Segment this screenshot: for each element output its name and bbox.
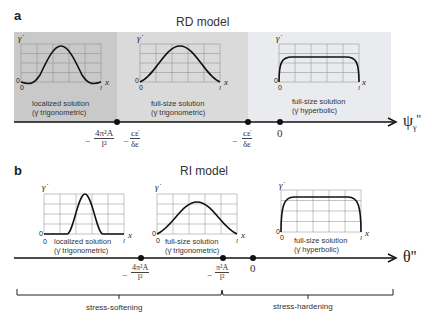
ydot-label: γ̇ — [276, 33, 280, 43]
stress-softening-label: stress-softening — [86, 303, 142, 312]
caption-a2: full-size solution(γ̇ trigonometric) — [151, 99, 205, 117]
tick-b2-neg: − — [207, 270, 212, 280]
ydot-label: γ̇ — [137, 33, 141, 43]
origin-label: 0 — [43, 238, 47, 245]
origin-label: 0 — [16, 77, 20, 84]
origin-label: 0 — [39, 230, 43, 237]
ydot-label: γ̇ — [279, 180, 283, 190]
origin-label: 0 — [20, 84, 24, 91]
tick-a1-neg: − — [85, 136, 90, 146]
tick-dot — [114, 119, 120, 125]
tick-a2-frac: cε̇δε — [242, 128, 252, 149]
tick-b1-neg: − — [122, 270, 127, 280]
xmax-label: l — [219, 84, 221, 92]
axis-a-label: ψγ'' — [403, 112, 421, 132]
tick-a1-neg2: − — [123, 136, 128, 146]
caption-b3: full-size solution(γ̇ hyperbolic) — [294, 236, 347, 254]
origin-label: 0 — [274, 77, 278, 84]
tick-a1-frac: 4π²Al² — [94, 128, 114, 149]
caption-b2: full-size solution(γ̇ trigonometric) — [165, 237, 219, 255]
x-label: x — [105, 77, 109, 87]
xmax-label: l — [236, 237, 238, 245]
ydot-label: γ̇ — [18, 33, 22, 43]
tick-b1-frac: 4π²Al² — [131, 263, 149, 282]
ydot-label: γ̇ — [155, 182, 159, 192]
panel-b-title: RI model — [180, 164, 228, 178]
axis-b-label: θ'' — [403, 248, 416, 266]
xmax-label: l — [360, 234, 362, 242]
panel-b-label: b — [14, 163, 22, 178]
origin-label: 0 — [156, 237, 160, 244]
x-label: x — [362, 77, 366, 87]
x-label: x — [365, 228, 369, 238]
x-label: x — [241, 230, 245, 240]
tick-b3-zero: 0 — [250, 262, 256, 274]
origin-label: 0 — [152, 230, 156, 237]
ydot-label: γ̇ — [42, 182, 46, 192]
origin-label: 0 — [135, 77, 139, 84]
x-label: x — [224, 77, 228, 87]
tick-b2-frac: π²Al² — [215, 263, 229, 282]
origin-label: 0 — [280, 234, 284, 241]
origin-label: 0 — [139, 84, 143, 91]
tick-a1-frac2: cε̇δε — [130, 128, 140, 149]
tick-a3-zero: 0 — [277, 127, 283, 139]
caption-b1: localized solution(γ̇ trigonometric) — [54, 237, 111, 255]
origin-label: 0 — [278, 84, 282, 91]
caption-a1: localized solution(γ̇ trigonometric) — [32, 99, 89, 117]
x-label: x — [128, 230, 132, 240]
stress-hardening-label: stress-hardening — [273, 302, 333, 311]
tick-a2-neg: − — [232, 136, 237, 146]
caption-a3: full-size solution(γ̇ hyperbolic) — [292, 97, 345, 115]
xmax-label: l — [123, 237, 125, 245]
plot-a1 — [21, 44, 101, 82]
xmax-label: l — [358, 84, 360, 92]
xmax-label: l — [100, 84, 102, 92]
